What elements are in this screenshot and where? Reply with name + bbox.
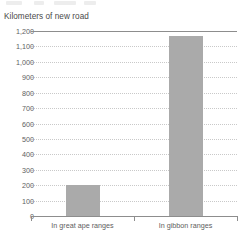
gridline [31, 93, 237, 94]
x-axis-tick [237, 216, 238, 221]
y-tick-label: 400 [0, 151, 34, 158]
gridline [31, 108, 237, 109]
gridline [31, 46, 237, 47]
y-tick-label: 100 [0, 198, 34, 205]
y-tick-label: 1,100 [0, 43, 34, 50]
y-tick-label: 0 [0, 213, 34, 220]
gridline [31, 170, 237, 171]
bar[interactable] [169, 36, 203, 216]
cropped-content-strip [0, 0, 245, 7]
gridline [31, 201, 237, 202]
gridline [31, 154, 237, 155]
bar-chart-figure: Kilometers of new road 1,2001,1001,00090… [0, 0, 245, 239]
y-tick-label: 600 [0, 121, 34, 128]
x-category-label: In gibbon ranges [134, 221, 237, 230]
x-category-label: In great ape ranges [31, 221, 134, 230]
y-tick-label: 1,200 [0, 28, 34, 35]
y-tick-label: 500 [0, 136, 34, 143]
gridline [31, 139, 237, 140]
bar[interactable] [66, 185, 100, 216]
gridline [31, 31, 237, 32]
gridline [31, 124, 237, 125]
y-tick-label: 200 [0, 182, 34, 189]
y-tick-label: 1,000 [0, 59, 34, 66]
y-tick-label: 800 [0, 90, 34, 97]
gridline [31, 77, 237, 78]
axis-baseline [31, 216, 237, 217]
y-tick-label: 300 [0, 167, 34, 174]
plot-area [31, 31, 237, 216]
gridline [31, 62, 237, 63]
gridline [31, 185, 237, 186]
chart-title: Kilometers of new road [4, 11, 89, 22]
y-tick-label: 700 [0, 105, 34, 112]
y-tick-label: 900 [0, 74, 34, 81]
